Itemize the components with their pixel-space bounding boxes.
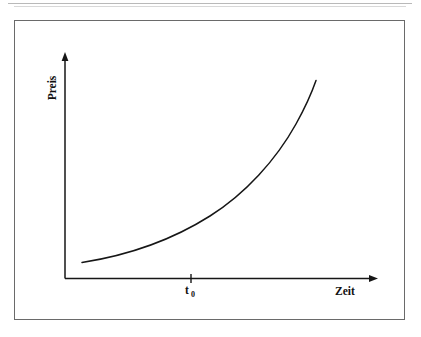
preis-axis-arrowhead [62, 52, 69, 61]
zeit-axis-group [65, 275, 378, 282]
price-over-time-chart: Preis Zeit t 0 [0, 0, 421, 337]
zeit-axis-label: Zeit [335, 285, 355, 297]
preis-axis-group [62, 52, 69, 279]
t0-label-subscript: 0 [191, 290, 195, 299]
preis-axis-label: Preis [46, 75, 58, 100]
zeit-axis-arrowhead [369, 275, 378, 282]
price-curve [82, 81, 316, 263]
t0-label-base: t [185, 284, 189, 296]
